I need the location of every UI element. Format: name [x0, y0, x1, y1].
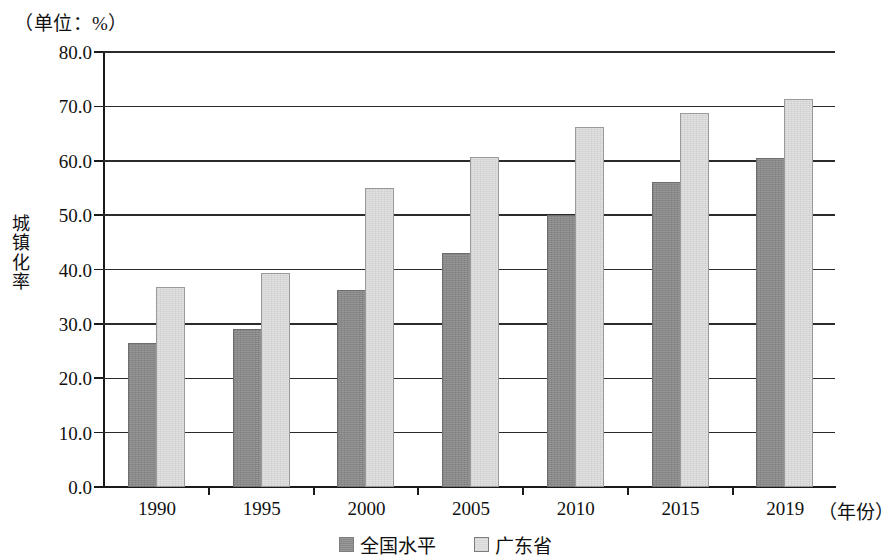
x-axis-tick-label: 1990 — [117, 498, 197, 520]
bar-national — [128, 343, 157, 487]
y-axis-title-char-3: 化 — [8, 254, 34, 273]
legend-swatch-guangdong-icon — [474, 537, 489, 552]
legend-label-guangdong: 广东省 — [495, 531, 552, 558]
x-axis-tick-label: 2010 — [536, 498, 616, 520]
x-axis-tick-label: 2005 — [431, 498, 511, 520]
legend-item-national[interactable]: 全国水平 — [339, 531, 436, 558]
x-axis-tick — [627, 487, 629, 495]
bar-national — [442, 253, 471, 487]
gridline — [103, 51, 835, 53]
x-axis-tick — [417, 487, 419, 495]
y-axis-tick-label: 20.0 — [59, 369, 92, 388]
y-axis-tick-label: 80.0 — [59, 43, 92, 62]
y-axis-title-char-1: 城 — [8, 215, 34, 234]
y-axis-tick — [94, 214, 103, 216]
y-axis-title-char-2: 镇 — [8, 234, 34, 253]
x-axis-title: （年份） — [818, 497, 890, 524]
x-axis-tick-label: 2000 — [326, 498, 406, 520]
x-axis-tick-label: 2015 — [641, 498, 721, 520]
bar-guangdong — [156, 287, 185, 487]
bar-guangdong — [680, 113, 709, 487]
y-axis-tick-label: 0.0 — [68, 478, 92, 497]
x-axis-tick-label: 2019 — [745, 498, 825, 520]
y-axis-tick-label: 10.0 — [59, 423, 92, 442]
bar-guangdong — [261, 273, 290, 487]
bar-guangdong — [575, 127, 604, 487]
bar-guangdong — [365, 188, 394, 487]
x-axis-tick-label: 1995 — [222, 498, 302, 520]
gridline — [103, 106, 835, 108]
y-axis-tick — [94, 51, 103, 53]
y-axis-tick — [94, 160, 103, 162]
bar-national — [337, 290, 366, 487]
bar-national — [233, 329, 262, 487]
x-axis-tick — [313, 487, 315, 495]
y-axis-tick-label: 50.0 — [59, 206, 92, 225]
urbanization-rate-bar-chart: （单位：%） 城 镇 化 率 80.070.060.050.040.030.02… — [0, 0, 890, 559]
legend-swatch-national-icon — [339, 537, 354, 552]
y-axis-tick — [94, 486, 103, 488]
bar-national — [756, 158, 785, 488]
x-axis-tick — [732, 487, 734, 495]
y-axis-tick — [94, 269, 103, 271]
y-axis-tick — [94, 377, 103, 379]
y-axis-title: 城 镇 化 率 — [8, 215, 34, 293]
y-axis-tick-label: 30.0 — [59, 314, 92, 333]
y-axis-tick-label: 60.0 — [59, 151, 92, 170]
plot-area — [103, 52, 835, 487]
chart-legend: 全国水平 广东省 — [0, 531, 890, 558]
y-axis-tick — [94, 432, 103, 434]
legend-item-guangdong[interactable]: 广东省 — [474, 531, 552, 558]
bar-national — [652, 182, 681, 487]
y-axis-tick — [94, 106, 103, 108]
y-axis-tick — [94, 323, 103, 325]
x-axis-tick — [208, 487, 210, 495]
gridline — [103, 160, 835, 162]
unit-note: （单位：%） — [14, 8, 128, 35]
bar-guangdong — [784, 99, 813, 487]
bar-guangdong — [470, 157, 499, 487]
gridline — [103, 214, 835, 216]
y-axis-tick-label: 40.0 — [59, 260, 92, 279]
x-axis-tick — [522, 487, 524, 495]
y-axis-tick-label: 70.0 — [59, 97, 92, 116]
legend-label-national: 全国水平 — [360, 531, 436, 558]
bar-national — [547, 215, 576, 487]
y-axis-title-char-4: 率 — [8, 273, 34, 292]
